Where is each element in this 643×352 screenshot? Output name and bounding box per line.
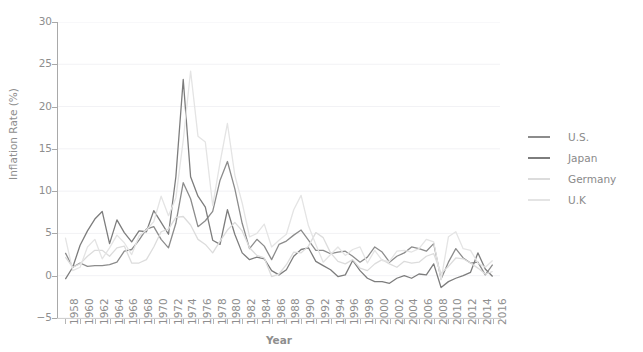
legend-swatch [528, 157, 550, 159]
series-line-germany [65, 217, 492, 277]
x-tick-mark [65, 319, 66, 324]
legend-item[interactable]: Germany [528, 168, 616, 189]
x-tick-label: 1988 [290, 298, 301, 325]
x-tick-label: 2008 [438, 298, 449, 325]
x-tick-label: 1982 [246, 298, 257, 325]
y-tick-label: 0 [26, 270, 52, 281]
x-tick-label: 2002 [394, 298, 405, 325]
x-tick-label: 1994 [335, 298, 346, 325]
y-tick-label: 10 [26, 185, 52, 196]
x-tick-mark [183, 319, 184, 324]
y-tick-mark [52, 22, 57, 23]
legend-item[interactable]: Japan [528, 147, 616, 168]
y-tick-label: 20 [26, 101, 52, 112]
x-tick-label: 2004 [408, 298, 419, 325]
x-tick-label: 2006 [423, 298, 434, 325]
x-tick-mark [213, 319, 214, 324]
x-tick-mark [404, 319, 405, 324]
x-tick-label: 1964 [114, 298, 125, 325]
x-tick-label: 1976 [202, 298, 213, 325]
x-tick-mark [331, 319, 332, 324]
legend-label: Japan [568, 152, 597, 164]
x-tick-label: 2014 [482, 298, 493, 325]
x-tick-mark [272, 319, 273, 324]
x-tick-mark [316, 319, 317, 324]
x-tick-mark [301, 319, 302, 324]
x-tick-label: 1992 [320, 298, 331, 325]
x-tick-mark [493, 319, 494, 324]
x-tick-label: 1960 [84, 298, 95, 325]
x-tick-label: 2012 [467, 298, 478, 325]
x-tick-mark [419, 319, 420, 324]
y-tick-mark [52, 149, 57, 150]
plot-area [58, 22, 500, 318]
x-tick-mark [257, 319, 258, 324]
x-tick-label: 1962 [99, 298, 110, 325]
x-tick-mark [139, 319, 140, 324]
x-tick-mark [434, 319, 435, 324]
x-tick-mark [242, 319, 243, 324]
y-tick-mark [52, 233, 57, 234]
y-tick-mark [52, 64, 57, 65]
x-tick-label: 2016 [497, 298, 508, 325]
x-tick-label: 1958 [69, 298, 80, 325]
x-tick-label: 1998 [364, 298, 375, 325]
x-tick-mark [110, 319, 111, 324]
x-tick-mark [286, 319, 287, 324]
x-tick-mark [448, 319, 449, 324]
x-tick-label: 2000 [379, 298, 390, 325]
legend-label: U.S. [568, 131, 589, 143]
x-tick-mark [124, 319, 125, 324]
x-tick-mark [198, 319, 199, 324]
x-tick-mark [154, 319, 155, 324]
x-tick-mark [390, 319, 391, 324]
x-tick-label: 1972 [173, 298, 184, 325]
series-line-us [65, 162, 492, 280]
x-tick-mark [345, 319, 346, 324]
series-lines [58, 22, 500, 318]
x-tick-mark [478, 319, 479, 324]
legend-item[interactable]: U.K [528, 189, 616, 210]
x-tick-label: 1990 [305, 298, 316, 325]
x-tick-mark [169, 319, 170, 324]
x-tick-label: 1970 [158, 298, 169, 325]
x-axis-title: Year [58, 334, 500, 346]
x-tick-label: 1996 [349, 298, 360, 325]
x-tick-label: 1974 [187, 298, 198, 325]
y-tick-label: 25 [26, 58, 52, 69]
chart-figure: Inflation Rate (%) 302520151050−5 195819… [0, 0, 643, 352]
y-tick-mark [52, 107, 57, 108]
x-tick-mark [227, 319, 228, 324]
y-tick-mark [52, 191, 57, 192]
x-tick-label: 1966 [128, 298, 139, 325]
x-tick-label: 1984 [261, 298, 272, 325]
y-tick-mark [52, 318, 57, 319]
x-tick-mark [375, 319, 376, 324]
y-tick-label: 30 [26, 16, 52, 27]
x-tick-mark [360, 319, 361, 324]
x-tick-mark [95, 319, 96, 324]
legend-swatch [528, 199, 550, 201]
x-tick-label: 1968 [143, 298, 154, 325]
x-tick-label: 2010 [452, 298, 463, 325]
y-axis-tick-labels: 302520151050−5 [22, 0, 52, 352]
x-tick-mark [80, 319, 81, 324]
x-tick-label: 1986 [276, 298, 287, 325]
legend-label: U.K [568, 194, 586, 206]
x-tick-label: 1980 [231, 298, 242, 325]
y-tick-mark [52, 276, 57, 277]
legend-label: Germany [568, 173, 616, 185]
legend-item[interactable]: U.S. [528, 126, 616, 147]
legend-swatch [528, 178, 550, 180]
y-tick-label: −5 [26, 312, 52, 323]
x-tick-label: 1978 [217, 298, 228, 325]
y-axis-title: Inflation Rate (%) [7, 59, 19, 209]
y-tick-label: 5 [26, 227, 52, 238]
y-tick-label: 15 [26, 143, 52, 154]
chart-legend: U.S.JapanGermanyU.K [528, 126, 616, 210]
legend-swatch [528, 136, 550, 138]
x-tick-mark [463, 319, 464, 324]
